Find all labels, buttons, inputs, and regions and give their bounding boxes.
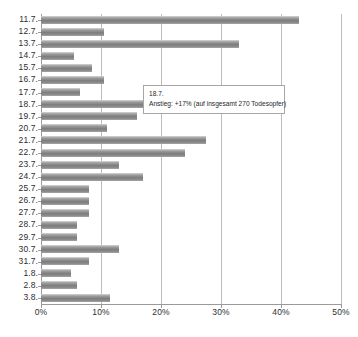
bar[interactable] (41, 257, 89, 265)
y-tick-label: 30.7. (2, 244, 38, 254)
bar-row (41, 14, 341, 24)
y-tick-mark (38, 225, 41, 226)
y-tick-label: 24.7. (2, 171, 38, 181)
bar-row (41, 195, 341, 205)
bar[interactable] (41, 52, 74, 60)
y-tick-mark (38, 262, 41, 263)
bar-chart: 11.7.12.7.13.7.14.7.15.7.16.7.17.7.18.7.… (0, 0, 358, 337)
bar[interactable] (41, 136, 206, 144)
y-tick-label: 13.7. (2, 38, 38, 48)
y-tick-label: 18.7. (2, 99, 38, 109)
bar[interactable] (41, 124, 107, 132)
bar[interactable] (41, 16, 299, 24)
bar[interactable] (41, 40, 239, 48)
x-tick-mark (41, 305, 42, 308)
x-axis-line (41, 304, 342, 305)
y-tick-mark (38, 44, 41, 45)
plot-area (41, 14, 341, 304)
bar[interactable] (41, 149, 185, 157)
bar-row (41, 50, 341, 60)
bar-row (41, 62, 341, 72)
y-tick-mark (38, 213, 41, 214)
gridline (341, 14, 342, 304)
bar[interactable] (41, 233, 77, 241)
bar[interactable] (41, 269, 71, 277)
x-tick-mark (161, 305, 162, 308)
data-tooltip: 18.7. Anstieg: +17% (auf insgesamt 270 T… (143, 85, 285, 114)
x-tick-mark (101, 305, 102, 308)
y-tick-label: 21.7. (2, 135, 38, 145)
x-tick-label: 10% (92, 307, 109, 317)
x-tick-label: 30% (212, 307, 229, 317)
y-tick-mark (38, 68, 41, 69)
bar[interactable] (41, 100, 143, 108)
bar[interactable] (41, 197, 89, 205)
y-tick-label: 28.7. (2, 219, 38, 229)
bar[interactable] (41, 88, 80, 96)
x-tick-label: 40% (272, 307, 289, 317)
y-tick-mark (38, 165, 41, 166)
x-tick-mark (221, 305, 222, 308)
bar-row (41, 135, 341, 145)
bar-row (41, 244, 341, 254)
bar-row (41, 26, 341, 36)
bar[interactable] (41, 28, 104, 36)
y-tick-mark (38, 298, 41, 299)
y-tick-label: 3.8. (2, 292, 38, 302)
tooltip-title: 18.7. (149, 89, 280, 99)
y-tick-label: 22.7. (2, 147, 38, 157)
y-tick-label: 1.8. (2, 268, 38, 278)
y-tick-mark (38, 201, 41, 202)
bar[interactable] (41, 209, 89, 217)
y-tick-label: 17.7. (2, 87, 38, 97)
bar[interactable] (41, 112, 137, 120)
y-tick-mark (38, 177, 41, 178)
y-axis-labels: 11.7.12.7.13.7.14.7.15.7.16.7.17.7.18.7.… (0, 14, 38, 304)
bar[interactable] (41, 281, 77, 289)
y-tick-mark (38, 117, 41, 118)
bar-row (41, 38, 341, 48)
tooltip-body: Anstieg: +17% (auf insgesamt 270 Todesop… (149, 99, 280, 109)
bar-row (41, 171, 341, 181)
bar-row (41, 207, 341, 217)
y-tick-mark (38, 105, 41, 106)
bar[interactable] (41, 173, 143, 181)
y-tick-label: 26.7. (2, 195, 38, 205)
y-tick-mark (38, 80, 41, 81)
y-tick-label: 2.8. (2, 280, 38, 290)
y-tick-mark (38, 93, 41, 94)
bar-row (41, 280, 341, 290)
y-tick-label: 27.7. (2, 207, 38, 217)
y-tick-label: 23.7. (2, 159, 38, 169)
x-axis-labels: 0%10%20%30%40%50% (0, 307, 358, 325)
bar[interactable] (41, 185, 89, 193)
bar[interactable] (41, 294, 110, 302)
x-tick-mark (341, 305, 342, 308)
x-tick-label: 0% (35, 307, 48, 317)
bar-row (41, 74, 341, 84)
bar[interactable] (41, 64, 92, 72)
y-tick-mark (38, 20, 41, 21)
y-tick-label: 29.7. (2, 232, 38, 242)
y-tick-label: 15.7. (2, 62, 38, 72)
bar[interactable] (41, 245, 119, 253)
bar[interactable] (41, 161, 119, 169)
y-tick-label: 16.7. (2, 74, 38, 84)
y-tick-label: 12.7. (2, 26, 38, 36)
bar-row (41, 256, 341, 266)
y-tick-label: 31.7. (2, 256, 38, 266)
bar-row (41, 123, 341, 133)
y-tick-mark (38, 189, 41, 190)
bar[interactable] (41, 76, 104, 84)
y-tick-mark (38, 56, 41, 57)
bar-row (41, 147, 341, 157)
y-tick-mark (38, 141, 41, 142)
y-tick-mark (38, 274, 41, 275)
x-tick-label: 20% (152, 307, 169, 317)
y-tick-mark (38, 286, 41, 287)
y-tick-label: 19.7. (2, 111, 38, 121)
bar[interactable] (41, 221, 77, 229)
bar-row (41, 232, 341, 242)
bar-row (41, 292, 341, 302)
y-tick-mark (38, 238, 41, 239)
